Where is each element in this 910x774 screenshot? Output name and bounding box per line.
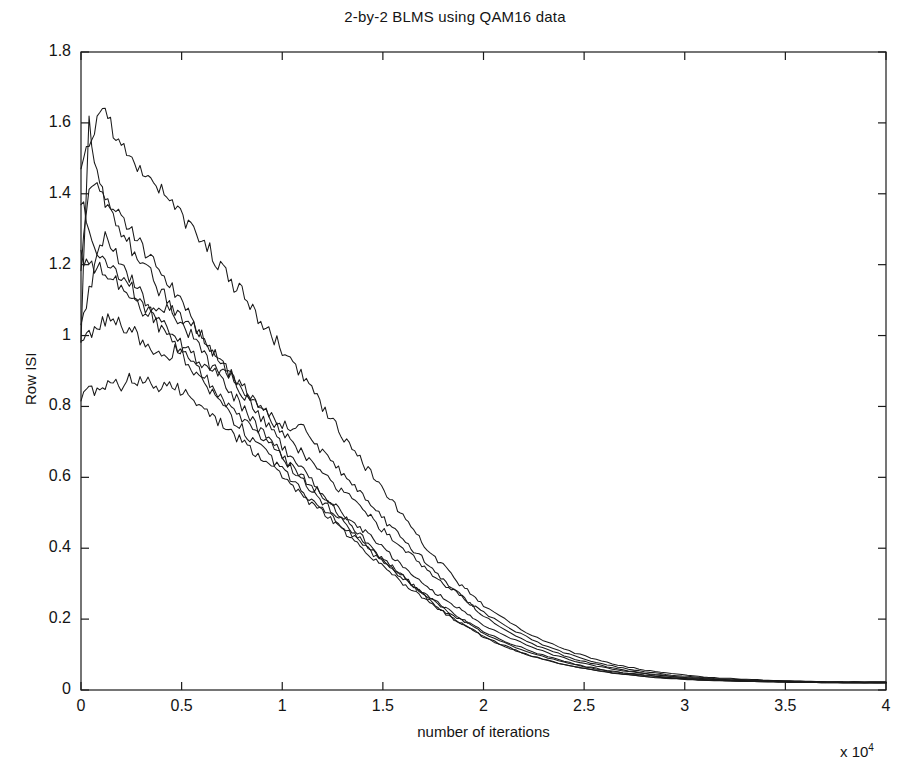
row-isi-5 [81, 232, 886, 682]
x-exponent-power: 4 [868, 742, 874, 753]
y-tick-label: 0.8 [0, 396, 71, 414]
figure-container: 2-by-2 BLMS using QAM16 data Row ISI num… [0, 0, 910, 774]
x-tick-label: 1.5 [343, 697, 423, 715]
x-tick-label: 4 [846, 697, 910, 715]
y-tick-label: 1.4 [0, 184, 71, 202]
plot-frame [81, 52, 886, 690]
x-tick-label: 2.5 [544, 697, 624, 715]
row-isi-8 [81, 373, 886, 682]
axes-group [81, 52, 886, 690]
y-tick-label: 0.2 [0, 609, 71, 627]
x-exponent-base: x 10 [840, 743, 868, 760]
row-isi-1 [81, 108, 886, 682]
y-tick-label: 1.2 [0, 255, 71, 273]
row-isi-7 [81, 314, 886, 683]
y-tick-label: 1.8 [0, 42, 71, 60]
plot-canvas [0, 0, 910, 774]
ticks-group [81, 52, 886, 690]
y-tick-label: 0.6 [0, 467, 71, 485]
x-tick-label: 0.5 [142, 697, 222, 715]
x-tick-label: 1 [242, 697, 322, 715]
y-tick-label: 0 [0, 680, 71, 698]
row-isi-2 [81, 116, 886, 683]
x-axis-exponent: x 104 [840, 742, 874, 760]
row-isi-3 [81, 183, 886, 683]
x-tick-label: 2 [444, 697, 524, 715]
y-tick-label: 1 [0, 326, 71, 344]
y-tick-label: 0.4 [0, 538, 71, 556]
series-lines-group [81, 108, 886, 683]
y-tick-label: 1.6 [0, 113, 71, 131]
x-tick-label: 0 [41, 697, 121, 715]
x-tick-label: 3.5 [745, 697, 825, 715]
x-tick-label: 3 [645, 697, 725, 715]
row-isi-6 [81, 250, 886, 682]
x-axis-label: number of iterations [344, 723, 624, 740]
